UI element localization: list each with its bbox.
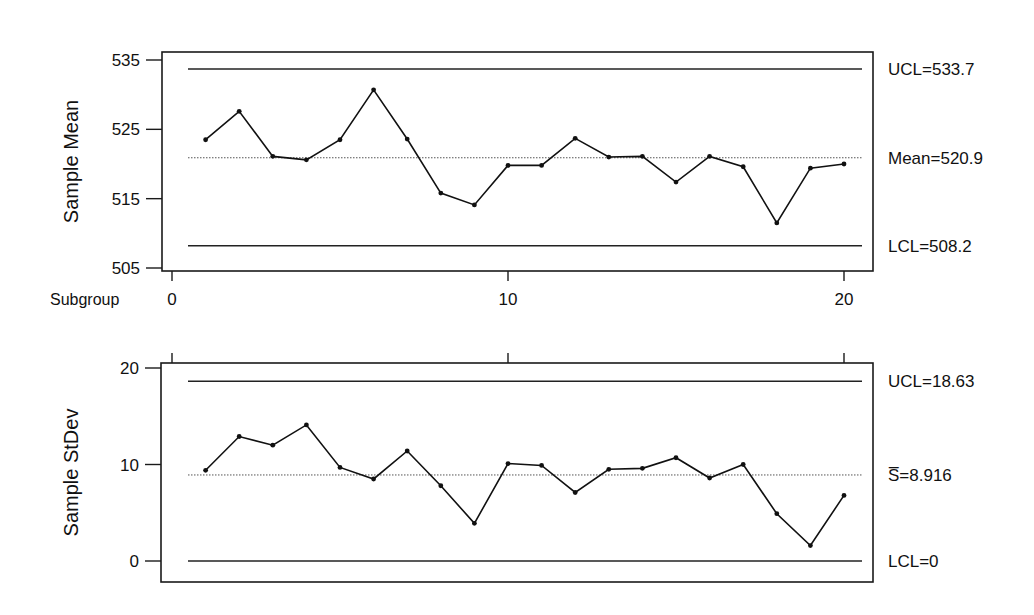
data-point	[338, 137, 343, 142]
data-point	[808, 166, 813, 171]
plot-frame	[162, 52, 873, 271]
data-point	[674, 455, 679, 460]
data-point	[237, 434, 242, 439]
data-point	[774, 221, 779, 226]
data-point	[371, 477, 376, 482]
data-point	[338, 465, 343, 470]
control-chart-figure: 50551552553501020SubgroupSample MeanUCL=…	[0, 0, 1034, 615]
data-point	[842, 162, 847, 167]
data-point	[405, 137, 410, 142]
data-point	[270, 154, 275, 159]
data-point	[606, 155, 611, 160]
data-point	[707, 154, 712, 159]
data-point	[640, 154, 645, 159]
data-series-line	[206, 425, 844, 546]
y-axis-label: Sample StDev	[60, 409, 82, 537]
y-tick-label: 0	[130, 552, 139, 571]
y-tick-label: 20	[120, 359, 139, 378]
x-tick-label: 0	[167, 290, 176, 309]
data-point	[741, 462, 746, 467]
data-point	[674, 180, 679, 185]
data-point	[304, 423, 309, 428]
data-point	[606, 467, 611, 472]
data-point	[741, 164, 746, 169]
data-point	[438, 191, 443, 196]
x-axis-label: Subgroup	[50, 291, 119, 308]
data-point	[270, 443, 275, 448]
ucl-label: UCL=533.7	[888, 60, 974, 79]
data-point	[640, 466, 645, 471]
y-axis-label: Sample Mean	[60, 100, 82, 223]
data-point	[573, 136, 578, 141]
mean-label: Mean=520.9	[888, 149, 983, 168]
data-point	[438, 483, 443, 488]
data-point	[808, 543, 813, 548]
data-point	[203, 468, 208, 473]
data-point	[304, 157, 309, 162]
data-point	[371, 87, 376, 92]
data-point	[506, 163, 511, 168]
x-tick-label: 10	[499, 290, 518, 309]
ucl-label: UCL=18.63	[888, 372, 974, 391]
s-bar-label: S̅=8.916	[888, 466, 952, 485]
data-point	[472, 521, 477, 526]
data-point	[842, 493, 847, 498]
x-tick-label: 20	[835, 290, 854, 309]
lcl-label: LCL=508.2	[888, 237, 972, 256]
data-point	[539, 463, 544, 468]
data-point	[539, 163, 544, 168]
data-series-line	[206, 90, 844, 223]
data-point	[707, 476, 712, 481]
y-tick-label: 515	[112, 190, 140, 209]
data-point	[472, 203, 477, 208]
data-point	[506, 461, 511, 466]
xbar-s-chart-svg: 50551552553501020SubgroupSample MeanUCL=…	[0, 0, 1034, 615]
data-point	[405, 449, 410, 454]
data-point	[774, 511, 779, 516]
data-point	[203, 137, 208, 142]
plot-frame	[161, 363, 873, 582]
y-tick-label: 525	[112, 120, 140, 139]
y-tick-label: 10	[120, 456, 139, 475]
lcl-label: LCL=0	[888, 552, 939, 571]
y-tick-label: 535	[112, 51, 140, 70]
data-point	[573, 490, 578, 495]
y-tick-label: 505	[112, 259, 140, 278]
data-point	[237, 109, 242, 114]
s-chart-panel: 01020Sample StDevUCL=18.63S̅=8.916LCL=0	[60, 353, 974, 582]
xbar-chart-panel: 50551552553501020SubgroupSample MeanUCL=…	[50, 51, 983, 309]
